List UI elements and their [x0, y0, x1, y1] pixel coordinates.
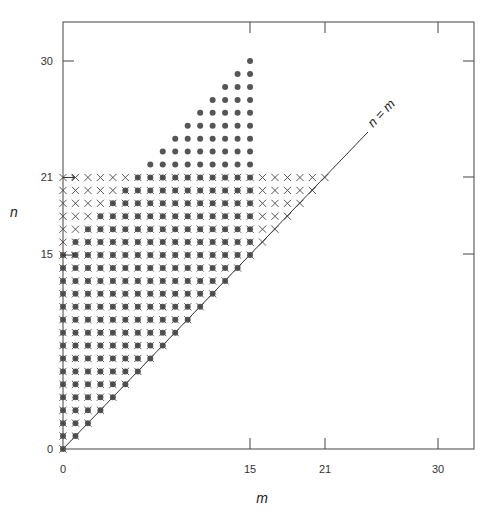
cross-marker: [72, 200, 79, 207]
dot-marker: [235, 84, 241, 90]
dot-marker: [172, 136, 178, 142]
dot-marker: [235, 123, 241, 129]
cross-marker: [284, 200, 291, 207]
cross-marker: [284, 187, 291, 194]
cross-marker: [271, 174, 278, 181]
dot-marker: [222, 110, 228, 116]
dot-marker: [235, 110, 241, 116]
y-tick-label-21: 21: [41, 171, 53, 183]
dot-marker: [247, 110, 253, 116]
cross-marker: [72, 187, 79, 194]
dot-marker: [222, 123, 228, 129]
y-tick-label-15: 15: [41, 248, 53, 260]
y-ticks: [63, 61, 474, 254]
cross-marker: [259, 200, 266, 207]
diagonal-label: n = m: [364, 96, 398, 130]
dot-marker: [185, 136, 191, 142]
dot-marker: [147, 162, 153, 168]
dot-marker: [247, 149, 253, 155]
cross-marker: [296, 174, 303, 181]
cross-marker: [296, 200, 303, 207]
cross-marker: [109, 187, 116, 194]
cross-marker: [84, 213, 91, 220]
cross-marker: [309, 174, 316, 181]
cross-marker: [271, 213, 278, 220]
cross-marker: [271, 226, 278, 233]
dot-marker: [247, 58, 253, 64]
cross-marker: [84, 200, 91, 207]
dot-marker: [185, 123, 191, 129]
dot-marker: [235, 162, 241, 168]
y-axis-title: n: [10, 204, 18, 220]
x-tick-label-21: 21: [319, 463, 331, 475]
cross-marker: [97, 187, 104, 194]
dot-marker: [235, 71, 241, 77]
cross-marker: [97, 200, 104, 207]
cross-marker: [72, 226, 79, 233]
x-tick-label-0: 0: [60, 463, 66, 475]
dot-marker: [210, 97, 216, 103]
x-ticks: [250, 22, 438, 449]
dot-marker: [222, 149, 228, 155]
dot-marker: [197, 162, 203, 168]
dot-marker: [210, 162, 216, 168]
cross-marker: [97, 174, 104, 181]
cross-marker: [321, 174, 328, 181]
cross-marker: [259, 226, 266, 233]
dot-marker: [197, 110, 203, 116]
cross-marker: [271, 187, 278, 194]
cross-marker: [84, 174, 91, 181]
dot-marker: [247, 136, 253, 142]
dot-marker: [247, 162, 253, 168]
dot-marker: [222, 84, 228, 90]
y-tick-label-30: 30: [41, 55, 53, 67]
cross-marker: [84, 187, 91, 194]
dot-marker: [222, 97, 228, 103]
dot-marker: [160, 149, 166, 155]
dot-marker: [172, 162, 178, 168]
y-tick-label-0: 0: [47, 443, 53, 455]
dot-marker: [247, 84, 253, 90]
cross-marker: [309, 187, 316, 194]
dot-marker: [197, 123, 203, 129]
cross-marker: [122, 174, 129, 181]
dot-marker: [210, 110, 216, 116]
cross-marker: [271, 200, 278, 207]
dot-marker: [197, 149, 203, 155]
dot-marker: [235, 136, 241, 142]
dot-marker: [160, 162, 166, 168]
data-points: [59, 58, 328, 453]
dot-marker: [247, 123, 253, 129]
dot-marker: [210, 136, 216, 142]
dot-marker: [235, 149, 241, 155]
dot-marker: [185, 162, 191, 168]
cross-marker: [296, 187, 303, 194]
dot-marker: [247, 71, 253, 77]
cross-marker: [259, 174, 266, 181]
dot-marker: [222, 162, 228, 168]
dot-marker: [197, 136, 203, 142]
cross-marker: [72, 213, 79, 220]
dot-marker: [235, 97, 241, 103]
dot-marker: [222, 136, 228, 142]
dot-marker: [247, 97, 253, 103]
dot-marker: [210, 123, 216, 129]
x-axis-title: m: [256, 490, 268, 506]
x-tick-label-30: 30: [432, 463, 444, 475]
x-tick-label-15: 15: [244, 463, 256, 475]
cross-marker: [284, 174, 291, 181]
chart: 0 15 21 30 0 15 21 30 m n n = m: [0, 0, 489, 514]
cross-marker: [284, 213, 291, 220]
cross-marker: [109, 174, 116, 181]
cross-marker: [259, 213, 266, 220]
dot-marker: [172, 149, 178, 155]
dot-marker: [210, 149, 216, 155]
cross-marker: [259, 187, 266, 194]
cross-marker: [259, 239, 266, 246]
dot-marker: [185, 149, 191, 155]
